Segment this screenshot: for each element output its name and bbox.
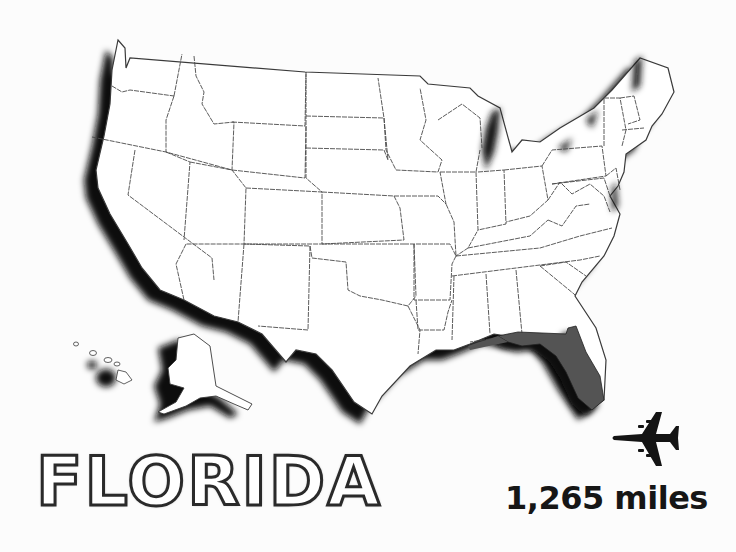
map-graphic: FLORIDA 1,265 miles bbox=[0, 0, 736, 552]
flight-distance: 1,265 miles bbox=[505, 482, 708, 514]
airplane-icon bbox=[612, 410, 684, 472]
state-name-title: FLORIDA bbox=[36, 448, 382, 516]
